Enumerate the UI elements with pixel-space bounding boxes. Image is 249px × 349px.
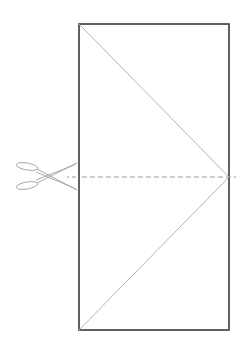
scissors-icon <box>16 161 77 191</box>
fold-cut-diagram <box>0 0 249 349</box>
